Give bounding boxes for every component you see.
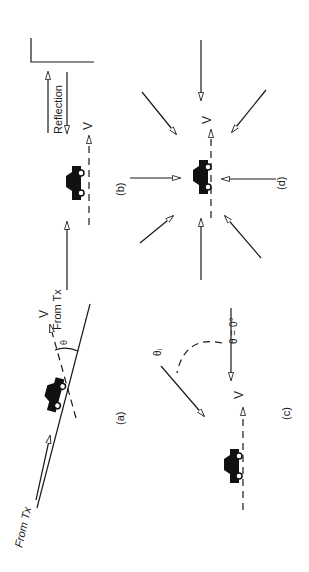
panel-a: From Tx V θ (a) bbox=[12, 304, 126, 548]
panel-label-b: (b) bbox=[114, 183, 126, 196]
incoming-arrow-d-6 bbox=[140, 216, 173, 243]
tx-ray-a bbox=[37, 304, 90, 508]
car-icon-b bbox=[66, 166, 84, 200]
reflection-label: Reflection bbox=[52, 85, 64, 134]
velocity-label-a: V bbox=[37, 310, 51, 318]
incoming-arrow-d-8 bbox=[142, 92, 176, 134]
wall-icon bbox=[31, 38, 94, 62]
angle-arc-a bbox=[55, 348, 78, 351]
doppler-figure: Reflection V From Tx (b) V (d) bbox=[0, 0, 309, 572]
panel-label-a: (a) bbox=[114, 412, 126, 425]
panel-b: Reflection V From Tx (b) bbox=[31, 38, 126, 330]
velocity-label-c: V bbox=[232, 391, 246, 399]
incoming-arrow-d-4 bbox=[225, 216, 261, 258]
car-icon-c bbox=[224, 449, 242, 483]
incoming-arrow-d-2 bbox=[232, 90, 266, 132]
from-tx-label-a: From Tx bbox=[12, 505, 33, 548]
theta-i-label: θᵢ bbox=[152, 348, 163, 356]
panel-label-d: (d) bbox=[275, 177, 287, 190]
panel-label-c: (c) bbox=[280, 407, 292, 420]
angle-arc-c bbox=[177, 342, 222, 373]
panel-d: V (d) bbox=[130, 40, 287, 280]
panel-c: θ = 0° θᵢ V (c) bbox=[152, 308, 292, 510]
velocity-label-b: V bbox=[81, 122, 95, 130]
theta-label-a: θ bbox=[59, 340, 69, 345]
car-icon-d bbox=[193, 160, 211, 194]
incoming-arrow-c-i bbox=[161, 366, 204, 416]
velocity-label-d: V bbox=[200, 116, 214, 124]
from-tx-label-b: From Tx bbox=[51, 289, 63, 330]
theta-zero-label: θ = 0° bbox=[228, 317, 239, 344]
